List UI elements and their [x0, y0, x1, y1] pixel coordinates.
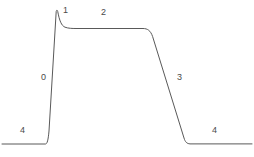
waveform-figure: 4 0 1 2 3 4	[0, 0, 254, 157]
segment-label-0: 0	[41, 73, 46, 82]
segment-label-4-left: 4	[20, 126, 25, 135]
segment-label-2: 2	[101, 8, 106, 17]
segment-label-4-right: 4	[212, 126, 217, 135]
segment-label-1: 1	[63, 6, 68, 15]
segment-label-3: 3	[177, 73, 182, 82]
